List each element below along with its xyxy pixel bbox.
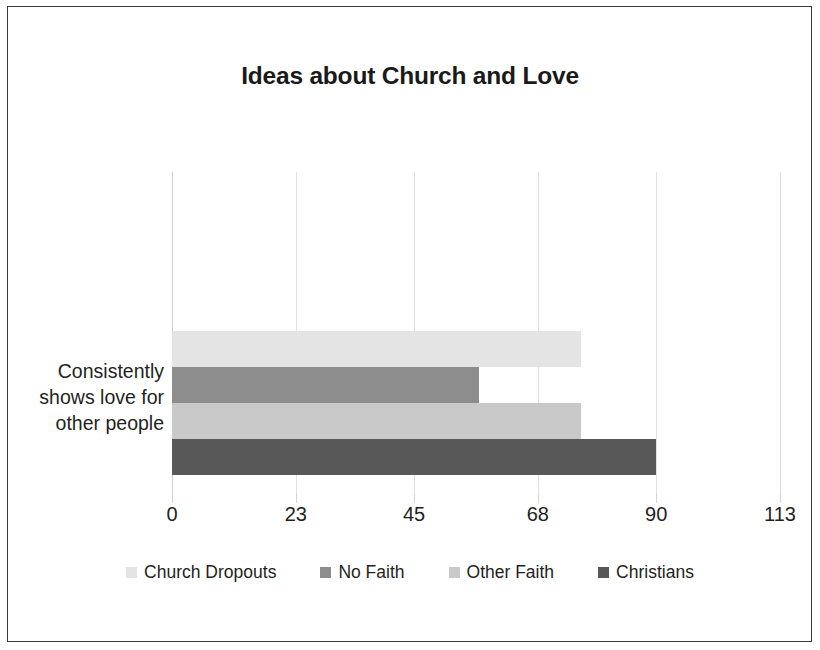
- bar-row: [172, 403, 780, 439]
- legend-swatch-icon: [126, 567, 137, 578]
- legend-item-christians[interactable]: Christians: [598, 562, 694, 583]
- gridline: [780, 172, 781, 494]
- category-axis-label-line-1: Consistently: [18, 358, 164, 384]
- category-axis-label: Consistently shows love for other people: [18, 358, 164, 436]
- category-axis-label-line-2: shows love for: [18, 384, 164, 410]
- legend-swatch-icon: [598, 567, 609, 578]
- x-tick-label: 0: [166, 503, 177, 526]
- chart-page: Ideas about Church and Love Consistently…: [0, 0, 820, 650]
- x-tick-mark: [780, 494, 781, 503]
- x-tick-label: 23: [285, 503, 307, 526]
- chart-title: Ideas about Church and Love: [0, 62, 820, 90]
- legend-label: Other Faith: [467, 562, 555, 583]
- legend-item-other-faith[interactable]: Other Faith: [449, 562, 555, 583]
- bar-no-faith[interactable]: [172, 367, 479, 403]
- x-tick-mark: [538, 494, 539, 503]
- legend-label: No Faith: [338, 562, 404, 583]
- bar-church-dropouts[interactable]: [172, 331, 581, 367]
- category-axis-label-line-3: other people: [18, 410, 164, 436]
- x-axis: 023456890113: [172, 494, 780, 528]
- plot-area: [172, 172, 780, 494]
- bar-row: [172, 439, 780, 475]
- bar-group: [172, 331, 780, 476]
- x-tick-mark: [656, 494, 657, 503]
- legend-item-church-dropouts[interactable]: Church Dropouts: [126, 562, 276, 583]
- x-tick-mark: [296, 494, 297, 503]
- x-tick-label: 68: [527, 503, 549, 526]
- legend: Church DropoutsNo FaithOther FaithChrist…: [0, 562, 820, 583]
- bar-christians[interactable]: [172, 439, 656, 475]
- bar-row: [172, 331, 780, 367]
- x-tick-label: 45: [403, 503, 425, 526]
- legend-label: Church Dropouts: [144, 562, 276, 583]
- x-tick-label: 113: [764, 503, 796, 526]
- legend-swatch-icon: [449, 567, 460, 578]
- legend-label: Christians: [616, 562, 694, 583]
- x-tick-mark: [414, 494, 415, 503]
- bar-other-faith[interactable]: [172, 403, 581, 439]
- bar-row: [172, 367, 780, 403]
- x-tick-label: 90: [645, 503, 667, 526]
- legend-item-no-faith[interactable]: No Faith: [320, 562, 404, 583]
- legend-swatch-icon: [320, 567, 331, 578]
- x-tick-mark: [172, 494, 173, 503]
